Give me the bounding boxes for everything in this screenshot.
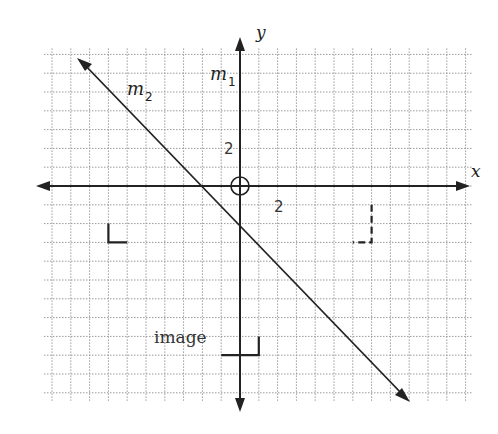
x-axis-right-arrow-icon: [456, 181, 470, 191]
image-label: image: [154, 327, 207, 347]
line-m2-label: m 2: [127, 78, 153, 104]
y-axis-label: y: [255, 22, 266, 42]
svg-text:2: 2: [145, 90, 153, 104]
line-m2: [82, 62, 404, 396]
svg-text:1: 1: [228, 75, 236, 89]
y-axis-up-arrow-icon: [235, 37, 245, 51]
x-axis-left-arrow-icon: [36, 181, 50, 191]
svg-text:m: m: [127, 78, 144, 99]
line-m1-label: m 1: [210, 63, 236, 89]
y-axis-down-arrow-icon: [235, 398, 245, 412]
original-L-shape: [108, 224, 127, 243]
svg-text:m: m: [210, 63, 227, 84]
x-tick-label: 2: [274, 198, 284, 216]
y-tick-label: 2: [224, 140, 234, 158]
coordinate-plane: y x 2 2 m 1 m 2 image: [0, 0, 498, 434]
x-axis-label: x: [471, 161, 481, 181]
